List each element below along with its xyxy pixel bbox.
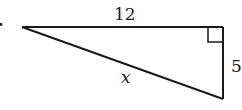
label-right-side: 5	[231, 58, 242, 75]
triangle-shape	[22, 27, 223, 99]
right-angle-marker-icon	[208, 27, 223, 42]
label-hypotenuse: x	[121, 69, 131, 86]
right-triangle-figure: . 12 5 x	[0, 0, 242, 110]
label-top-side: 12	[114, 6, 136, 23]
hypotenuse	[22, 27, 223, 99]
